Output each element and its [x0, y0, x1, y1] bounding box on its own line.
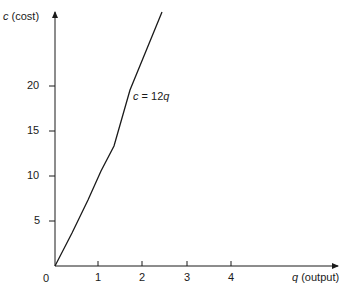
y-tick-label: 20 [27, 79, 39, 91]
annotation-equals: = 12 [139, 90, 164, 102]
x-ticks [98, 261, 231, 266]
y-axis-label: c (cost) [3, 10, 39, 22]
y-tick-label: 10 [27, 169, 39, 181]
x-axis-label: q (output) [292, 271, 339, 283]
x-axis-text: (output) [301, 271, 339, 283]
x-tick-label: 1 [95, 271, 101, 283]
y-tick-label: 5 [34, 214, 40, 226]
y-axis-var: c [3, 10, 9, 22]
chart-canvas [0, 0, 350, 297]
cost-line [55, 12, 162, 266]
line-annotation: c = 12q [133, 90, 169, 102]
x-tick-label: 4 [228, 271, 234, 283]
x-axis-var: q [292, 271, 298, 283]
annotation-var-q: q [163, 90, 169, 102]
x-tick-label: 2 [139, 271, 145, 283]
origin-label: 0 [43, 272, 49, 284]
y-ticks [49, 86, 55, 221]
y-axis-text: (cost) [12, 10, 40, 22]
y-tick-label: 15 [27, 124, 39, 136]
x-tick-label: 3 [184, 271, 190, 283]
